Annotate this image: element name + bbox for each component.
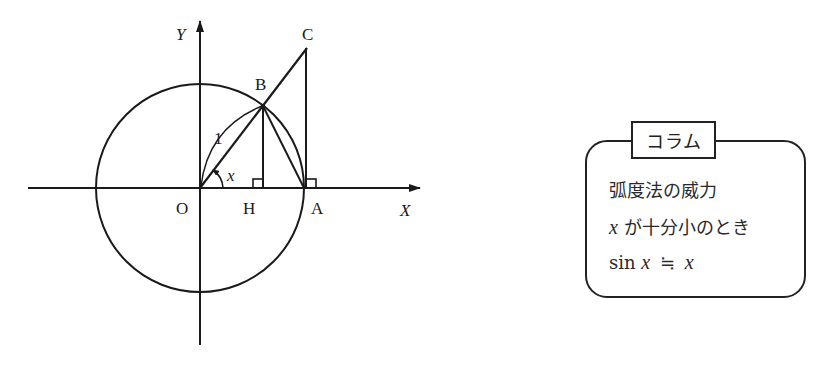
point-B-dot <box>261 104 265 108</box>
segment-BA <box>263 106 304 188</box>
unit-circle-diagram: Y X O H A B C 1 x <box>0 0 460 367</box>
x-axis-label: X <box>399 201 411 220</box>
column-line-2: x が十分小のとき <box>609 213 750 239</box>
column-line-3: sin x ≒ x <box>609 251 694 274</box>
math-var-x: x <box>609 216 618 238</box>
sin-text: sin <box>609 252 636 273</box>
column-line-1-text: 弧度法の威力 <box>609 180 717 201</box>
point-label-A: A <box>311 199 324 218</box>
point-label-C: C <box>302 25 313 44</box>
approx-equal-sign: ≒ <box>660 252 675 273</box>
point-label-O: O <box>176 199 188 218</box>
angle-label: x <box>226 166 235 185</box>
radius-label: 1 <box>214 129 223 148</box>
point-label-H: H <box>243 199 255 218</box>
y-axis-label: Y <box>176 25 187 44</box>
math-var-x: x <box>641 251 650 273</box>
column-line-1: 弧度法の威力 <box>609 176 717 202</box>
right-angle-mark-H <box>253 179 263 188</box>
angle-arc <box>213 170 223 188</box>
column-line-2-text: が十分小のとき <box>624 217 750 238</box>
math-var-x: x <box>685 251 694 273</box>
point-label-B: B <box>255 75 266 94</box>
right-angle-mark-A <box>306 179 316 188</box>
column-title: コラム <box>631 121 716 159</box>
segment-OC <box>200 48 307 188</box>
